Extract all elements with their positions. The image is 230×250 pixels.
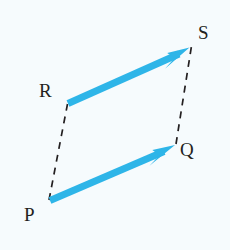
figure-canvas: P Q R S [0, 0, 230, 250]
vector-r-to-s [68, 48, 190, 104]
point-label-p: P [24, 205, 35, 224]
vector-p-to-q [50, 145, 175, 201]
point-label-r: R [39, 81, 52, 100]
point-label-s: S [198, 23, 209, 42]
point-label-q: Q [180, 140, 194, 159]
vector-p-to-q-shaft [50, 152, 164, 201]
dashed-p-to-r [49, 104, 68, 200]
vector-r-to-s-shaft [68, 54, 179, 104]
dashed-q-to-s [176, 46, 192, 144]
